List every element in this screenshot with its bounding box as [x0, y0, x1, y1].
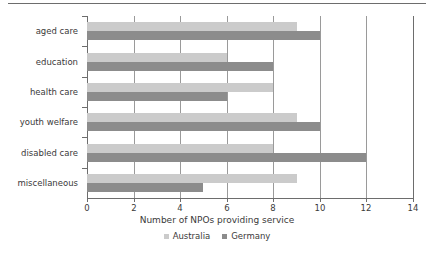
bar-miscellaneous-australia [87, 174, 297, 183]
category-label-education: education [36, 57, 78, 67]
gridline-4 [180, 16, 181, 198]
category-label-disabled-care: disabled care [21, 148, 78, 158]
x-tick-label-10: 10 [305, 203, 335, 213]
bar-youth-welfare-germany [87, 122, 320, 131]
x-tick-12 [366, 198, 367, 202]
x-tick-label-8: 8 [258, 203, 288, 213]
x-tick-label-4: 4 [165, 203, 195, 213]
x-axis-line [87, 198, 414, 199]
category-label-youth-welfare: youth welfare [20, 117, 78, 127]
y-tick-5 [82, 168, 87, 169]
bar-disabled-care-germany [87, 153, 366, 162]
top-divider-rule [8, 3, 426, 4]
bar-education-germany [87, 62, 273, 71]
x-tick-label-2: 2 [119, 203, 149, 213]
legend-item-australia: Australia [164, 231, 211, 241]
bar-health-care-germany [87, 92, 227, 101]
x-tick-14 [413, 198, 414, 202]
bar-aged-care-germany [87, 31, 320, 40]
category-label-health-care: health care [30, 87, 78, 97]
x-tick-label-0: 0 [72, 203, 102, 213]
bar-disabled-care-australia [87, 144, 273, 153]
x-axis-title: Number of NPOs providing service [0, 215, 434, 225]
category-label-miscellaneous: miscellaneous [17, 178, 78, 188]
gridline-14 [413, 16, 414, 198]
x-tick-10 [320, 198, 321, 202]
y-tick-1 [82, 46, 87, 47]
y-tick-4 [82, 137, 87, 138]
x-tick-2 [134, 198, 135, 202]
gridline-12 [366, 16, 367, 198]
bar-education-australia [87, 53, 227, 62]
x-tick-label-6: 6 [212, 203, 242, 213]
bar-health-care-australia [87, 83, 273, 92]
x-tick-4 [180, 198, 181, 202]
bar-youth-welfare-australia [87, 113, 297, 122]
x-tick-6 [227, 198, 228, 202]
legend-label-australia: Australia [173, 231, 211, 241]
gridline-0 [87, 16, 88, 198]
x-tick-label-14: 14 [398, 203, 428, 213]
x-tick-8 [273, 198, 274, 202]
legend-swatch-germany-icon [222, 234, 227, 239]
legend-swatch-australia-icon [164, 234, 169, 239]
gridline-6 [227, 16, 228, 198]
y-tick-0 [82, 16, 87, 17]
category-axis-labels: aged careeducationhealth careyouth welfa… [0, 16, 82, 198]
y-tick-3 [82, 107, 87, 108]
gridline-2 [134, 16, 135, 198]
gridline-10 [320, 16, 321, 198]
bar-aged-care-australia [87, 22, 297, 31]
legend-label-germany: Germany [231, 231, 270, 241]
bar-miscellaneous-germany [87, 183, 203, 192]
chart-legend: Australia Germany [0, 231, 434, 241]
y-tick-2 [82, 77, 87, 78]
category-label-aged-care: aged care [36, 26, 78, 36]
gridline-8 [273, 16, 274, 198]
x-tick-0 [87, 198, 88, 202]
plot-area [87, 16, 413, 198]
bar-chart-figure: aged careeducationhealth careyouth welfa… [0, 0, 434, 256]
x-tick-label-12: 12 [351, 203, 381, 213]
legend-item-germany: Germany [222, 231, 270, 241]
